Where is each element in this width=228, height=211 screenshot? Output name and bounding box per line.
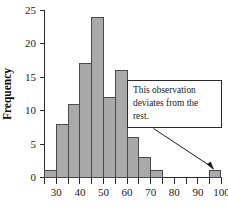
x-tick-label-80: 80 xyxy=(169,186,181,198)
annotation-line-3: rest. xyxy=(133,111,149,121)
annotation-line-2: deviates from the xyxy=(133,98,198,108)
y-tick-label-10: 10 xyxy=(25,104,37,116)
bar-95-100 xyxy=(209,171,221,178)
annotation-arrowhead-icon xyxy=(207,162,213,169)
bar-55-60 xyxy=(115,71,127,178)
y-tick-label-0: 0 xyxy=(31,171,37,183)
annotation-line-1: This observation xyxy=(133,85,196,95)
bar-45-50 xyxy=(92,17,104,177)
histogram-chart: 0 5 10 15 20 25 Frequency xyxy=(0,0,228,211)
bar-50-55 xyxy=(104,97,116,177)
bar-35-40 xyxy=(68,104,80,178)
y-tick-label-25: 25 xyxy=(25,4,37,16)
bar-25-30 xyxy=(45,171,57,178)
x-tick-label-40: 40 xyxy=(74,186,86,198)
x-tick-label-70: 70 xyxy=(145,186,157,198)
bar-70-75 xyxy=(151,171,163,178)
x-tick-label-90: 90 xyxy=(192,186,204,198)
y-tick-label-15: 15 xyxy=(25,71,37,83)
y-tick-label-20: 20 xyxy=(25,37,37,49)
annotation-arrow-line xyxy=(154,129,213,168)
annotation-leader xyxy=(154,129,214,170)
y-axis-title: Frequency xyxy=(1,68,14,120)
x-tick-label-100: 100 xyxy=(213,186,228,198)
x-tick-label-50: 50 xyxy=(98,186,110,198)
bar-30-35 xyxy=(56,124,68,177)
bar-65-70 xyxy=(139,158,151,178)
x-tick-label-60: 60 xyxy=(122,186,134,198)
y-axis-tick-labels: 0 5 10 15 20 25 xyxy=(25,4,37,183)
bar-60-65 xyxy=(127,137,139,177)
x-tick-label-30: 30 xyxy=(51,186,63,198)
y-axis-ticks xyxy=(40,11,45,178)
x-axis-tick-labels: 30 40 50 60 70 80 90 100 xyxy=(51,186,228,198)
x-axis-ticks xyxy=(45,178,222,184)
histogram-figure: 0 5 10 15 20 25 Frequency xyxy=(0,0,228,211)
y-tick-label-5: 5 xyxy=(31,138,37,150)
bar-40-45 xyxy=(80,64,92,178)
